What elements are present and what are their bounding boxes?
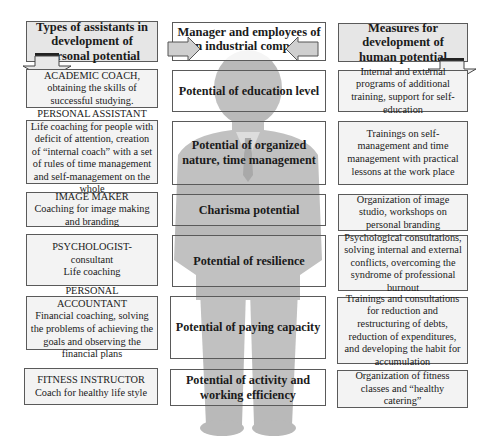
assistant-title: FITNESS INSTRUCTOR [37, 374, 145, 387]
assistant-desc: Financial coaching, solving the problems… [30, 310, 154, 360]
potential-resilience: Potential of resilience [172, 235, 326, 287]
left-arrow-icon [284, 36, 320, 62]
assistant-academic-coach: ACADEMIC COACH, obtaining the skills of … [26, 69, 158, 108]
measure-label: Trainings and consultations for reductio… [341, 293, 464, 368]
assistant-desc: Life coaching [64, 266, 121, 279]
assistant-desc: Coaching for image making and branding [30, 203, 154, 228]
potential-label: Potential of education level [179, 84, 319, 99]
assistant-psychologist: PSYCHOLOGIST- consultant Life coaching [26, 234, 158, 286]
right-arrow-icon [166, 36, 202, 62]
measure-fitness-classes: Organization of fitness classes and “hea… [337, 370, 468, 408]
potential-activity-efficiency: Potential of activity and working effici… [170, 369, 326, 406]
measure-label: Trainings on self-management and time ma… [342, 128, 464, 178]
measure-label: Psychological consultations, solving int… [342, 232, 464, 295]
assistant-desc: Coach for healthy life style [35, 387, 147, 400]
assistant-title: PERSONAL ASSISTANT [37, 108, 147, 121]
potential-organized-nature: Potential of organized nature, time mana… [172, 121, 326, 185]
potential-paying-capacity: Potential of paying capacity [170, 296, 326, 359]
measure-image-studio: Organization of image studio, workshops … [338, 194, 468, 231]
measure-label: Internal and external programs of additi… [342, 66, 464, 116]
assistant-personal-accountant: PERSONAL ACCOUNTANT Financial coaching, … [26, 296, 158, 350]
potential-label: Charisma potential [199, 203, 300, 218]
assistant-title: IMAGE MAKER [55, 191, 129, 204]
potential-label: Potential of paying capacity [176, 320, 321, 335]
assistant-title: ACADEMIC COACH, obtaining the skills of … [30, 70, 154, 108]
assistant-title: PSYCHOLOGIST- consultant [30, 241, 154, 266]
measure-education-programs: Internal and external programs of additi… [338, 70, 468, 112]
potential-label: Potential of resilience [193, 254, 304, 269]
potential-charisma: Charisma potential [172, 194, 326, 226]
assistant-image-maker: IMAGE MAKER Coaching for image making an… [26, 192, 158, 227]
measure-self-management-trainings: Trainings on self-management and time ma… [338, 121, 468, 185]
assistant-personal-assistant: PERSONAL ASSISTANT Life coaching for peo… [26, 120, 158, 184]
measure-debt-trainings: Trainings and consultations for reductio… [337, 297, 468, 364]
assistant-fitness-instructor: FITNESS INSTRUCTOR Coach for healthy lif… [24, 368, 158, 405]
measure-label: Organization of image studio, workshops … [342, 194, 464, 232]
potential-label: Potential of organized nature, time mana… [176, 138, 322, 167]
assistant-title: PERSONAL ACCOUNTANT [30, 285, 154, 310]
assistant-desc: Life coaching for people with deficit of… [30, 121, 154, 196]
potential-label: Potential of activity and working effici… [174, 373, 322, 402]
measure-psychological-consultations: Psychological consultations, solving int… [338, 235, 468, 291]
measure-label: Organization of fitness classes and “hea… [341, 370, 464, 408]
potential-education-level: Potential of education level [172, 70, 326, 112]
